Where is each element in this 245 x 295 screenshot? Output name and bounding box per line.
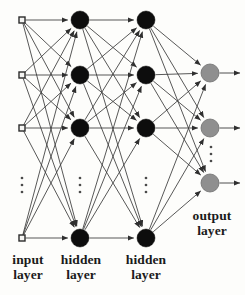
- node-h1d: [71, 229, 89, 247]
- node-h2d: [137, 229, 155, 247]
- ellipsis-dot-hidden1-1: [79, 177, 82, 180]
- edge-hidden1-h1b-to-hidden2-h2a: [87, 28, 136, 69]
- node-o2: [201, 119, 219, 137]
- neural-network-diagram: input layer hidden layer hidden layer ou…: [0, 0, 245, 295]
- ellipsis-dot-input-1: [21, 177, 24, 180]
- edge-input-i4-to-hidden1-h1b: [23, 86, 76, 234]
- ellipsis-dot-input-3: [21, 191, 24, 194]
- node-h1b: [71, 66, 89, 84]
- node-i4: [19, 235, 25, 241]
- output-layer-label: output layer: [179, 208, 245, 238]
- ellipsis-dot-hidden2-1: [145, 177, 148, 180]
- edge-hidden1-h1c-to-hidden2-h2d: [85, 136, 140, 227]
- edge-input-i3-to-hidden1-h1a: [24, 31, 75, 125]
- edge-hidden1-h1b-to-hidden2-h2d: [84, 84, 142, 227]
- edge-hidden2-h2a-to-output-o2: [151, 28, 204, 117]
- node-h1a: [71, 11, 89, 29]
- ellipsis-dot-output-2: [210, 153, 213, 156]
- edge-hidden1-h1d-to-hidden2-h2a: [83, 32, 143, 229]
- ellipsis-dot-hidden2-2: [145, 184, 148, 187]
- ellipsis-dot-output-1: [210, 146, 213, 149]
- hidden-layer-1-label: hidden layer: [48, 252, 114, 282]
- hidden-layer-2-label: hidden layer: [113, 252, 179, 282]
- node-i1: [19, 17, 25, 23]
- edge-input-i2-to-hidden1-h1a: [25, 28, 72, 72]
- node-h2b: [137, 66, 155, 84]
- edge-hidden1-h1a-to-hidden2-h2c: [85, 28, 140, 117]
- ellipsis-dot-input-2: [21, 184, 24, 187]
- edge-input-i1-to-hidden1-h1b: [25, 22, 72, 66]
- network-graph: [0, 0, 245, 295]
- ellipsis-dot-output-3: [210, 160, 213, 163]
- node-h2a: [137, 11, 155, 29]
- ellipsis-dot-hidden2-3: [145, 191, 148, 194]
- edge-input-i1-to-hidden1-h1d: [23, 23, 77, 226]
- node-i2: [19, 72, 25, 78]
- node-o1: [201, 64, 219, 82]
- ellipsis-dot-hidden1-3: [79, 191, 82, 194]
- node-h2c: [137, 119, 155, 137]
- edge-hidden2-h2a-to-output-o1: [153, 26, 200, 65]
- node-i3: [19, 125, 25, 131]
- node-o3: [201, 174, 219, 192]
- edge-hidden2-h2b-to-output-o1: [156, 73, 198, 74]
- edge-hidden1-h1d-to-hidden2-h2c: [85, 138, 140, 229]
- edge-input-i4-to-hidden1-h1a: [23, 32, 77, 235]
- ellipsis-dot-hidden1-2: [79, 184, 82, 187]
- node-h1c: [71, 119, 89, 137]
